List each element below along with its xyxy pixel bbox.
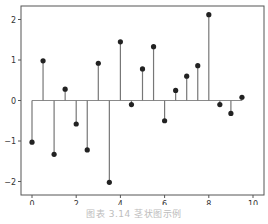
- stem-marker: [63, 87, 68, 92]
- stem-marker: [228, 111, 233, 116]
- stem-marker: [40, 58, 45, 63]
- stem-marker: [217, 102, 222, 107]
- stem-marker: [29, 140, 34, 145]
- stem-marker: [206, 12, 211, 17]
- figure-caption: 图表 3.14 茎状图示例: [0, 207, 268, 220]
- stem-marker: [52, 152, 57, 157]
- stem-marker: [85, 147, 90, 152]
- stem-marker: [162, 118, 167, 123]
- plot-area: 0246810−2−1012: [4, 6, 264, 205]
- stem-marker: [151, 44, 156, 49]
- y-tick-label: 0: [11, 97, 16, 106]
- x-tick-label: 0: [29, 200, 34, 205]
- stem-marker: [195, 63, 200, 68]
- y-tick-label: 1: [11, 56, 16, 65]
- stem-marker: [129, 102, 134, 107]
- stem-marker: [118, 39, 123, 44]
- stem-chart: 0246810−2−1012: [0, 0, 268, 205]
- x-tick-label: 6: [162, 200, 167, 205]
- x-tick-label: 2: [74, 200, 79, 205]
- x-tick-label: 10: [248, 200, 258, 205]
- stem-marker: [239, 95, 244, 100]
- stem-marker: [96, 61, 101, 66]
- x-tick-label: 4: [118, 200, 123, 205]
- y-tick-label: −1: [4, 137, 16, 146]
- x-tick-label: 8: [206, 200, 211, 205]
- stem-marker: [107, 180, 112, 185]
- stem-marker: [184, 74, 189, 79]
- stem-marker: [74, 121, 79, 126]
- stem-marker: [173, 88, 178, 93]
- stem-marker: [140, 66, 145, 71]
- y-tick-label: 2: [11, 16, 16, 25]
- y-tick-label: −2: [4, 178, 16, 187]
